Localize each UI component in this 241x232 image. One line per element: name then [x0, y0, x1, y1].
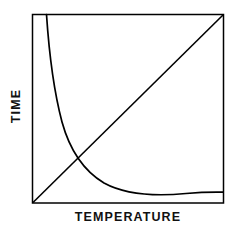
chart-figure: TIME TEMPERATURE: [0, 0, 241, 232]
x-axis-label-container: TEMPERATURE: [32, 206, 224, 228]
plot-area: [0, 0, 241, 232]
y-axis-label: TIME: [9, 89, 23, 123]
x-axis-label: TEMPERATURE: [75, 210, 181, 224]
series-rising-line: [33, 15, 223, 203]
y-axis-label-container: TIME: [0, 60, 32, 152]
